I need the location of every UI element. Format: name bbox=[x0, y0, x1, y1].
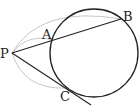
label-a: A bbox=[41, 27, 52, 42]
secant-pb bbox=[12, 19, 121, 53]
label-b: B bbox=[123, 9, 133, 24]
label-p: P bbox=[0, 46, 9, 61]
label-c: C bbox=[60, 89, 70, 104]
tangent-pc bbox=[12, 53, 91, 105]
geometry-diagram: P A B C bbox=[0, 0, 139, 107]
